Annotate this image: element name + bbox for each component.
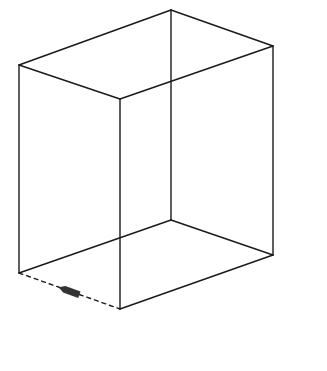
edge-bottom_right-bottom_front bbox=[120, 255, 273, 309]
edge-bottom_back-bottom_right bbox=[171, 220, 273, 255]
solid-edges bbox=[19, 10, 273, 309]
diagram-canvas bbox=[0, 0, 327, 371]
wireframe-box-diagram bbox=[0, 0, 327, 371]
edge-top_right-top_front bbox=[120, 46, 273, 99]
arrow-shape bbox=[57, 284, 80, 298]
edge-bottom_left-bottom_back bbox=[19, 220, 171, 273]
edge-top_front-top_left bbox=[19, 65, 120, 99]
edge-top_back-top_right bbox=[171, 10, 273, 46]
edge-top_left-top_back bbox=[19, 10, 171, 65]
arrow-icon bbox=[57, 284, 80, 298]
